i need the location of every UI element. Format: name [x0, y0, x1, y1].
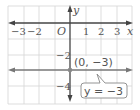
- x-axis-label: x: [127, 25, 134, 38]
- point-label: (0, −3): [74, 56, 113, 69]
- equation-label: y = −3: [84, 85, 123, 98]
- origin-label: O: [57, 25, 66, 38]
- x-tick-label: −3: [11, 26, 26, 37]
- arrow-down-icon: [68, 95, 73, 102]
- coordinate-plane: y x O −3 −2 1 2 3 −2 −4 (0, −3) y = −3: [0, 0, 140, 110]
- x-tick-label: 1: [83, 26, 89, 37]
- arrow-left-icon: [8, 68, 15, 73]
- y-tick-label: −4: [56, 81, 71, 92]
- x-tick-label: 2: [98, 26, 104, 37]
- x-tick-label: 3: [114, 26, 120, 37]
- point-0-neg3: [68, 68, 73, 73]
- x-tick-label: −2: [27, 26, 42, 37]
- arrow-left-icon: [8, 21, 15, 26]
- equation-callout: y = −3: [81, 74, 127, 98]
- y-axis-label: y: [72, 4, 80, 17]
- y-tick-label: −2: [56, 50, 71, 61]
